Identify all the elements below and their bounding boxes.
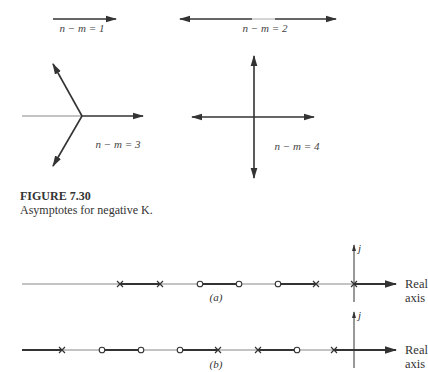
figure-caption: Asymptotes for negative K. (20, 203, 153, 217)
asymptote-panel-1: n − m = 1 (53, 19, 116, 34)
zero-o-icon (138, 347, 144, 353)
zero-o-icon (236, 281, 242, 287)
asymptote-panel-4: n − m = 4 (192, 56, 320, 178)
real-axis-label-line1: Real (405, 277, 428, 291)
asymptote-panel-3: n − m = 3 (22, 64, 143, 166)
asymptote-arrow-240deg (53, 116, 82, 166)
zero-o-icon (197, 281, 203, 287)
real-axis-label-line2: axis (405, 357, 425, 371)
imaginary-axis-label: j (356, 309, 361, 321)
real-axis-label-line1: Real (405, 343, 428, 357)
zero-o-icon (99, 347, 105, 353)
figure-number: FIGURE 7.30 (20, 189, 91, 203)
real-axis-label-line2: axis (405, 291, 425, 305)
zero-o-icon (275, 281, 281, 287)
figure-canvas: n − m = 1 n − m = 2 n − m = 3 n − m = 4 … (0, 0, 428, 372)
sublabel: (b) (210, 358, 223, 371)
sublabel: (a) (210, 291, 223, 304)
panel-label: n − m = 3 (96, 138, 141, 150)
panel-label: n − m = 1 (60, 22, 105, 34)
real-axis-example-b: j (b) Real axis (22, 309, 428, 371)
asymptote-arrow-120deg (53, 64, 82, 116)
panel-label: n − m = 2 (243, 22, 288, 34)
imaginary-axis-label: j (356, 242, 361, 254)
zero-o-icon (177, 347, 183, 353)
real-axis-example-a: j (a) Real axis (22, 242, 428, 305)
asymptote-panel-2: n − m = 2 (180, 19, 336, 34)
zero-o-icon (294, 347, 300, 353)
panel-label: n − m = 4 (275, 140, 320, 152)
